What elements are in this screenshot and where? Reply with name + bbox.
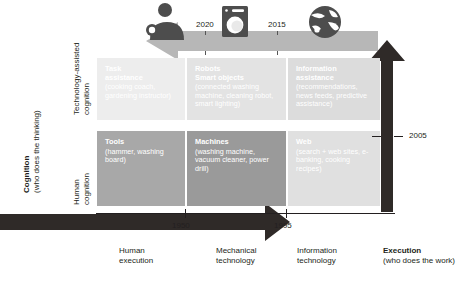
y-label-technology-assisted: Technology-assisted cognition: [72, 43, 91, 115]
washing-machine-icon: [222, 6, 248, 37]
top-tick-2020-lower: [205, 51, 206, 55]
year-label-2020: 2020: [196, 20, 214, 29]
x-label-line1: Mechanical: [216, 246, 256, 255]
grid-divider: [185, 58, 186, 206]
grid-divider: [286, 58, 287, 206]
cell-tools: Tools (hammer, washing board): [97, 131, 185, 206]
top-tick-2015: [277, 31, 278, 35]
y-label-line2: cognition: [82, 83, 91, 115]
year-2005-leader-right: [394, 136, 403, 137]
year-label-2005: 2005: [409, 131, 427, 140]
y-label-human-cognition: Human cognition: [72, 173, 91, 205]
x-axis-title: Execution (who does the work): [383, 246, 455, 266]
x-label-line2: technology: [216, 256, 255, 265]
y-label-line1: Human: [72, 179, 81, 205]
x-axis-title-bold: Execution: [383, 246, 421, 255]
x-tick-1995: [286, 209, 287, 213]
cell-task-assistance: Task assistance (cooking coach, gardenin…: [97, 58, 185, 120]
y-label-line2: cognition: [82, 173, 91, 205]
cell-title-2: assistance: [105, 73, 143, 82]
top-tick-2020: [205, 31, 206, 35]
cell-title: Machines: [195, 137, 229, 146]
x-axis-line: [96, 213, 395, 214]
y-label-line1: Technology-assisted: [72, 43, 81, 115]
year-label-1995: 1995: [274, 221, 292, 230]
cell-machines: Machines (washing machine, vacuum cleane…: [187, 131, 286, 206]
cell-title-2: assistance: [296, 73, 334, 82]
x-axis-title-sub: (who does the work): [383, 256, 455, 265]
year-2005-leader-left: [372, 136, 381, 137]
cell-sub: (cooking coach, gardening instructor): [105, 83, 177, 100]
year-label-1950: 1950: [172, 221, 190, 230]
x-label-mechanical-technology: Mechanical technology: [216, 246, 256, 266]
grid-divider-row: [97, 120, 380, 131]
x-label-human-execution: Human execution: [119, 246, 153, 266]
cell-sub: (connected washing machine, cleaning rob…: [195, 83, 278, 109]
cell-sub: (search + web sites, e-banking, cooking …: [296, 148, 372, 174]
cell-sub: (recommendations, news feeds, predictive…: [296, 83, 372, 109]
cell-title: Tools: [105, 137, 124, 146]
cell-sub: (washing machine, vacuum cleaner, power …: [195, 148, 278, 174]
year-label-2015: 2015: [268, 20, 286, 29]
left-arrow: [146, 22, 378, 60]
x-label-information-technology: Information technology: [297, 246, 337, 266]
x-tick-1950: [185, 209, 186, 213]
person-icon: [146, 3, 184, 40]
x-tick-1950-lower: [185, 214, 186, 218]
y-axis-title-bold: Cognition: [22, 156, 31, 193]
cell-sub: (hammer, washing board): [105, 148, 177, 165]
y-axis-title-sub: (who does the thinking): [32, 110, 41, 193]
cell-robots-smart-objects: Robots Smart objects (connected washing …: [187, 58, 286, 120]
x-label-line2: technology: [297, 256, 336, 265]
top-tick-2015-lower: [277, 51, 278, 55]
cell-web: Web (search + web sites, e-banking, cook…: [288, 131, 380, 206]
x-label-line1: Information: [297, 246, 337, 255]
cell-title: Web: [296, 137, 311, 146]
cell-information-assistance: Information assistance (recommendations,…: [288, 58, 380, 120]
globe-icon: [309, 6, 341, 38]
x-tick-1995-lower: [286, 214, 287, 218]
x-label-line2: execution: [119, 256, 153, 265]
cell-title-2: Smart objects: [195, 73, 244, 82]
y-axis-title: Cognition (who does the thinking): [22, 110, 41, 193]
right-arrow: [0, 203, 290, 241]
x-label-line1: Human: [119, 246, 145, 255]
diagram-canvas: Task assistance (cooking coach, gardenin…: [0, 0, 465, 286]
